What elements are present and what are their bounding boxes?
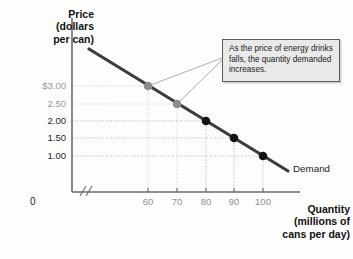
x-tick-label-80: 80 [195, 196, 217, 207]
data-point-70-250 [173, 100, 182, 109]
y-axis-title-line-1: Price [8, 8, 94, 20]
x-tick-label-100: 100 [252, 196, 274, 207]
y-tick-label-300: $3.00 [14, 80, 66, 91]
data-point-90-150 [230, 134, 239, 143]
demand-curve-figure: Price (dollars per can) Quantity (millio… [0, 0, 353, 259]
x-axis-title-line-3: cans per day) [252, 228, 350, 240]
annotation-text: As the price of energy drinks falls, the… [229, 44, 334, 76]
axis-break-icon [80, 186, 92, 196]
annotation-callout: As the price of energy drinks falls, the… [222, 39, 340, 82]
y-tick-label-200: 2.00 [14, 115, 66, 126]
annotation-leader-lines [148, 58, 222, 104]
x-tick-label-70: 70 [166, 196, 188, 207]
leader-to-point-60 [148, 58, 222, 86]
y-axis-title-line-2: (dollars [8, 20, 94, 32]
y-tick-label-100: 1.00 [14, 150, 66, 161]
y-tick-label-150: 1.50 [14, 132, 66, 143]
origin-label: 0 [30, 196, 36, 208]
y-tick-label-250: 2.50 [14, 98, 66, 109]
demand-curve-label: Demand [293, 163, 330, 175]
x-tick-label-90: 90 [223, 196, 245, 207]
y-axis-title-line-3: per can) [8, 33, 94, 45]
x-axis-title: Quantity (millions of cans per day) [252, 203, 350, 240]
y-axis-title: Price (dollars per can) [8, 8, 94, 45]
x-tick-label-60: 60 [137, 196, 159, 207]
data-point-80-200 [202, 117, 211, 126]
x-axis-title-line-2: (millions of [252, 215, 350, 227]
data-point-100-100 [259, 152, 268, 161]
vertical-gridlines [148, 86, 263, 192]
data-point-60-300 [144, 82, 153, 91]
